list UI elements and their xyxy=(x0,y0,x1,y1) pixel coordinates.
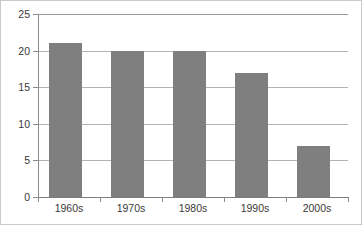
bar-2000s[interactable] xyxy=(297,146,330,197)
y-tick-label-wrap-25: 25 xyxy=(1,9,30,19)
bar-1980s[interactable] xyxy=(173,51,206,197)
x-tick-label-1990s: 1990s xyxy=(224,202,286,215)
y-tick-label-0: 0 xyxy=(24,192,30,202)
bar-chart: 25 20 15 10 5 0 1960s 1970s 1980s 1990s … xyxy=(0,0,362,225)
bar-1970s[interactable] xyxy=(111,51,144,197)
y-tick-label-5: 5 xyxy=(24,155,30,165)
bar-1960s[interactable] xyxy=(49,43,82,197)
x-tick-label-1980s: 1980s xyxy=(162,202,224,215)
y-tick-label-20: 20 xyxy=(18,46,30,56)
y-tick-label-15: 15 xyxy=(18,82,30,92)
y-tick-label-wrap-10: 10 xyxy=(1,119,30,129)
y-tick-label-25: 25 xyxy=(18,9,30,19)
bar-1990s[interactable] xyxy=(235,73,268,197)
x-tick-mark-5 xyxy=(348,197,349,202)
y-tick-label-wrap-15: 15 xyxy=(1,82,30,92)
y-tick-label-wrap-20: 20 xyxy=(1,46,30,56)
x-tick-label-1970s: 1970s xyxy=(100,202,162,215)
x-tick-label-1960s: 1960s xyxy=(38,202,100,215)
x-axis-line xyxy=(38,197,349,198)
bars-layer xyxy=(38,14,348,197)
y-tick-label-10: 10 xyxy=(18,119,30,129)
x-tick-label-2000s: 2000s xyxy=(286,202,348,215)
y-tick-label-wrap-5: 5 xyxy=(1,155,30,165)
y-tick-label-wrap-0: 0 xyxy=(1,192,30,202)
